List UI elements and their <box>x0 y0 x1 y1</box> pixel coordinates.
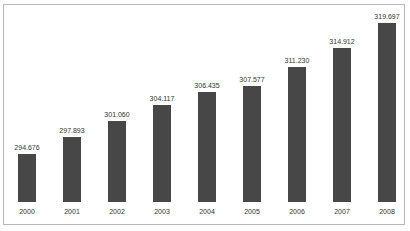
x-axis-label: 2008 <box>361 208 410 216</box>
bar <box>18 154 36 202</box>
bar <box>333 48 351 202</box>
bar <box>108 121 126 202</box>
data-label: 311.230 <box>271 57 323 65</box>
bar <box>153 105 171 202</box>
data-label: 304.117 <box>136 95 188 103</box>
bar-group-2008: 319.6972008 <box>367 0 407 231</box>
bar-group-2003: 304.1172003 <box>142 0 182 231</box>
bar-group-2001: 297.8932001 <box>52 0 92 231</box>
data-label: 301.060 <box>91 111 143 119</box>
data-label: 294.676 <box>1 144 53 152</box>
data-label: 319.697 <box>361 13 410 21</box>
bar-group-2007: 314.9122007 <box>322 0 362 231</box>
bar-chart: 294.6762000297.8932001301.0602002304.117… <box>0 0 410 231</box>
data-label: 314.912 <box>316 38 368 46</box>
bar <box>243 86 261 202</box>
bar-group-2004: 306.4352004 <box>187 0 227 231</box>
bar <box>378 23 396 202</box>
bar <box>288 67 306 202</box>
bar <box>198 92 216 202</box>
bar-group-2005: 307.5772005 <box>232 0 272 231</box>
data-label: 307.577 <box>226 76 278 84</box>
bar <box>63 137 81 202</box>
bar-group-2006: 311.2302006 <box>277 0 317 231</box>
bar-group-2002: 301.0602002 <box>97 0 137 231</box>
data-label: 297.893 <box>46 127 98 135</box>
bar-group-2000: 294.6762000 <box>7 0 47 231</box>
